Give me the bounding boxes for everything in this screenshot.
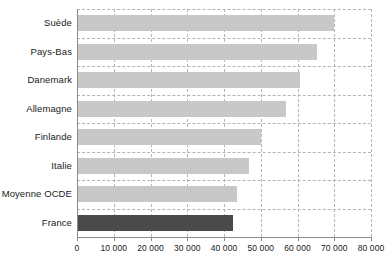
x-tick-label: 40 000 <box>211 243 238 253</box>
bar <box>77 215 233 231</box>
bar <box>77 101 286 117</box>
x-tick-label: 10 000 <box>100 243 127 253</box>
category-label: Italie <box>0 161 72 171</box>
gridline-horizontal <box>77 180 371 181</box>
category-label: Moyenne OCDE <box>0 189 72 199</box>
x-tick-mark <box>334 237 335 241</box>
bar <box>77 129 261 145</box>
x-tick-label: 60 000 <box>284 243 311 253</box>
x-tick-label: 20 000 <box>137 243 164 253</box>
bar <box>77 44 317 60</box>
x-tick-mark <box>224 237 225 241</box>
x-tick-label: 80 000 <box>358 243 385 253</box>
x-tick-mark <box>151 237 152 241</box>
x-tick-mark <box>187 237 188 241</box>
category-label: Pays-Bas <box>0 47 72 57</box>
category-label: Allemagne <box>0 104 72 114</box>
x-tick-mark <box>114 237 115 241</box>
category-axis-labels: SuèdePays-BasDanemarkAllemagneFinlandeIt… <box>0 9 72 237</box>
category-label: Danemark <box>0 75 72 85</box>
gridline-horizontal <box>77 38 371 39</box>
bar <box>77 15 334 31</box>
gridline-horizontal <box>77 123 371 124</box>
x-tick-label: 30 000 <box>174 243 201 253</box>
category-label: Finlande <box>0 132 72 142</box>
x-tick-mark <box>298 237 299 241</box>
gridline-horizontal <box>77 95 371 96</box>
x-tick-label: 50 000 <box>247 243 274 253</box>
gridline-horizontal <box>77 209 371 210</box>
category-label: France <box>0 218 72 228</box>
bar <box>77 158 249 174</box>
x-tick-mark <box>261 237 262 241</box>
gridline-horizontal <box>77 152 371 153</box>
x-tick-mark <box>371 237 372 241</box>
y-axis-line <box>77 9 78 238</box>
gridline-vertical <box>371 9 372 237</box>
x-tick-mark <box>77 237 78 241</box>
category-label: Suède <box>0 18 72 28</box>
x-tick-label: 0 <box>75 243 80 253</box>
gridline-horizontal <box>77 66 371 67</box>
plot-area <box>77 9 371 237</box>
gridline-horizontal <box>77 9 371 10</box>
bar <box>77 72 300 88</box>
bar <box>77 186 237 202</box>
bar-chart: SuèdePays-BasDanemarkAllemagneFinlandeIt… <box>0 0 389 271</box>
x-tick-label: 70 000 <box>321 243 348 253</box>
